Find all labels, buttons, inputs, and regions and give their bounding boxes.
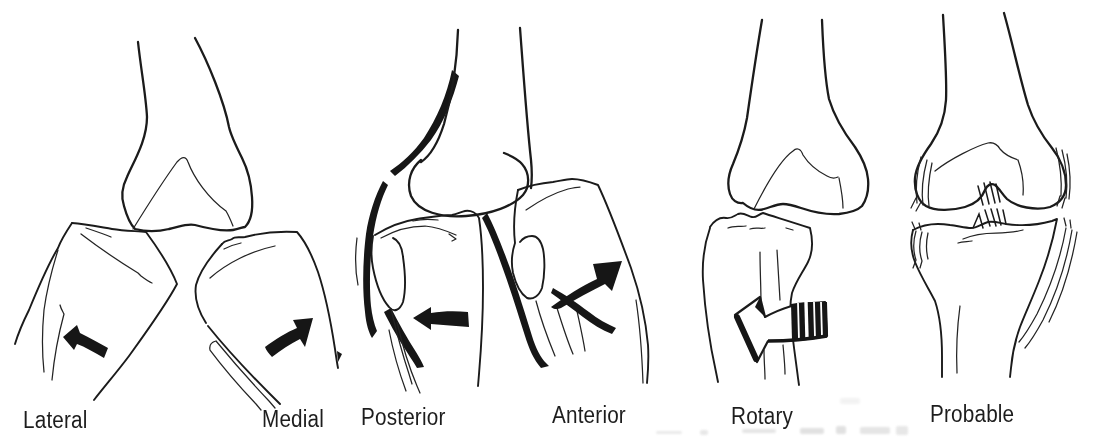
knee-dislocation-diagram [0, 0, 1097, 438]
cropped-caption-remnant [860, 427, 890, 434]
femur-outline [915, 13, 1066, 210]
posterior-displacement-arrow [413, 307, 469, 330]
tibia-inner-shaft-line [957, 306, 960, 373]
anterior-displacement-arrow [551, 261, 622, 309]
posterior-tibia-tuberosity-hook [372, 236, 405, 310]
medial-tibia-ridge-lines [210, 243, 275, 278]
tibial-spine-hatching [973, 209, 1006, 228]
anterior-tibia-tuberosity-hook [512, 190, 544, 299]
femoral-condyle-ball [409, 153, 528, 216]
posterior-tibia-back-edge [356, 238, 358, 285]
femur-outline [122, 38, 252, 231]
cropped-caption-remnant [800, 428, 824, 434]
medial-displacement-arrow [265, 318, 313, 357]
tibia-left-edge [703, 228, 718, 382]
label-posterior: Posterior [361, 404, 445, 431]
label-medial: Medial [262, 406, 324, 433]
medial-fibula-lines [210, 341, 275, 410]
femur-outline [728, 20, 868, 214]
medial-tibia-left-edge [196, 244, 222, 323]
ribbon-stripe-gap [806, 302, 807, 339]
panel-posterior-anterior-illustration [337, 28, 648, 393]
scan-artifact [840, 398, 860, 404]
panel-lateral-medial-illustration [15, 38, 338, 410]
label-lateral: Lateral [23, 407, 88, 434]
tibia-surface-squiggle [958, 230, 1023, 243]
label-anterior: Anterior [552, 402, 626, 429]
lateral-tibia-ridge-lines [81, 228, 152, 283]
femur-trochlea-line [133, 158, 233, 230]
label-probable: Probable [930, 401, 1014, 428]
medial-tibia-shaft-edge [208, 326, 280, 404]
lateral-displacement-arrow [63, 325, 108, 358]
popliteal-artery-lower-band [363, 181, 388, 338]
tibia-outline [913, 219, 1057, 377]
lateral-collateral-frayed-ligament [1056, 148, 1070, 208]
femur-trochlea-line [935, 143, 1023, 195]
lateral-tibia-outline [72, 223, 177, 400]
anterior-tibia-ridge-line [526, 187, 580, 210]
cropped-caption-remnant [896, 426, 908, 435]
panel-rotary-illustration [703, 20, 868, 385]
posterior-tibia-outline [375, 211, 483, 386]
anterior-artery-branch-band [482, 213, 549, 368]
cropped-caption-remnant [700, 430, 708, 435]
tibia-surface-squiggles [728, 226, 793, 230]
cropped-caption-remnant [836, 426, 846, 434]
lateral-ligament-strands [1019, 218, 1077, 348]
cropped-caption-remnant [742, 429, 776, 433]
label-rotary: Rotary [731, 403, 793, 430]
panel-probable-illustration [911, 13, 1077, 377]
edge-tick-mark [337, 351, 342, 362]
cropped-caption-remnant [656, 431, 682, 434]
lateral-tibia-left-edge [15, 223, 72, 344]
femur-trochlea-line [754, 149, 843, 209]
knee-dislocation-figure: Lateral Medial Posterior Anterior Rotary… [0, 0, 1097, 438]
